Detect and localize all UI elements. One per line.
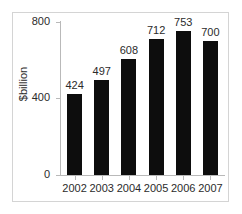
x-tick-mark-2007 (210, 175, 211, 180)
bar-2006 (176, 31, 191, 175)
x-tick-mark-2003 (102, 175, 103, 180)
x-tick-mark-2006 (183, 175, 184, 180)
x-tick-mark-2002 (75, 175, 76, 180)
bar-2003 (94, 80, 109, 175)
y-tick-label-0: 0 (10, 169, 50, 180)
y-axis-title: $billion (17, 54, 29, 114)
bar-value-label-2003: 497 (82, 66, 122, 77)
x-tick-mark-2004 (129, 175, 130, 180)
y-tick-label-800: 800 (10, 16, 50, 27)
bar-value-label-2002: 424 (55, 80, 95, 91)
x-tick-label-2007: 2007 (190, 183, 230, 194)
bar-2004 (121, 59, 136, 175)
bar-2007 (203, 41, 218, 175)
bar-value-label-2007: 700 (190, 27, 230, 38)
bar-value-label-2004: 608 (109, 45, 149, 56)
x-axis-line (60, 175, 225, 176)
y-tick-label-400: 400 (10, 92, 50, 103)
bar-chart-figure: $billion 800 400 0 424200249720036082004… (0, 0, 242, 214)
bar-2005 (149, 39, 164, 175)
bar-2002 (67, 94, 82, 175)
x-tick-mark-2005 (156, 175, 157, 180)
